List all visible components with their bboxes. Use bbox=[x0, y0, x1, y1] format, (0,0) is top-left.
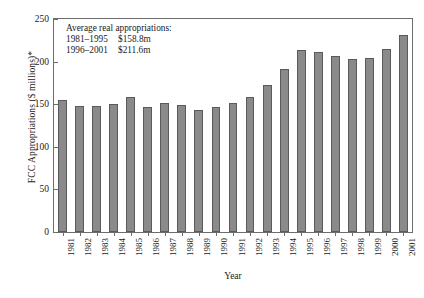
x-tick-label-1995: 1995 bbox=[305, 238, 315, 256]
bar-rect bbox=[75, 106, 84, 232]
y-tick-label: 250 bbox=[35, 14, 54, 24]
x-tick-label-1981: 1981 bbox=[66, 238, 76, 256]
annotation-period: 1996–2001 bbox=[66, 45, 118, 56]
bar-rect bbox=[314, 52, 323, 232]
x-tick-label-1997: 1997 bbox=[339, 238, 349, 256]
plot-area: 050100150200250 198119821983198419851986… bbox=[53, 18, 413, 233]
x-tick-mark bbox=[250, 232, 251, 236]
bar-rect bbox=[263, 85, 272, 232]
bar-1988 bbox=[177, 19, 186, 232]
x-tick-mark bbox=[233, 232, 234, 236]
bar-rect bbox=[246, 97, 255, 232]
bar-rect bbox=[331, 56, 340, 232]
annotation-box: Average real appropriations: 1981–1995$1… bbox=[66, 23, 172, 57]
annotation-period: 1981–1995 bbox=[66, 34, 118, 45]
x-tick-mark bbox=[80, 232, 81, 236]
bar-1995 bbox=[297, 19, 306, 232]
y-tick-label: 150 bbox=[35, 99, 54, 109]
x-tick-mark bbox=[216, 232, 217, 236]
x-tick-label-1994: 1994 bbox=[288, 238, 298, 256]
bar-rect bbox=[194, 110, 203, 232]
x-tick-label-1982: 1982 bbox=[83, 238, 93, 256]
x-tick-label-1996: 1996 bbox=[322, 238, 332, 256]
bar-1999 bbox=[365, 19, 374, 232]
x-tick-label-2000: 2000 bbox=[390, 238, 400, 256]
x-tick-label-1988: 1988 bbox=[185, 238, 195, 256]
x-tick-mark bbox=[284, 232, 285, 236]
annotation-row: 1996–2001$211.6m bbox=[66, 45, 172, 56]
bar-rect bbox=[143, 107, 152, 232]
x-tick-mark bbox=[131, 232, 132, 236]
y-tick-label: 200 bbox=[35, 57, 54, 67]
x-tick-mark bbox=[369, 232, 370, 236]
bar-1993 bbox=[263, 19, 272, 232]
x-tick-mark bbox=[267, 232, 268, 236]
x-tick-label-1987: 1987 bbox=[168, 238, 178, 256]
bar-rect bbox=[399, 35, 408, 232]
x-tick-label-1998: 1998 bbox=[356, 238, 366, 256]
x-tick-mark bbox=[352, 232, 353, 236]
annotation-row: 1981–1995$158.8m bbox=[66, 34, 172, 45]
bar-rect bbox=[382, 49, 391, 232]
bar-1992 bbox=[246, 19, 255, 232]
x-tick-mark bbox=[403, 232, 404, 236]
x-tick-mark bbox=[318, 232, 319, 236]
x-tick-mark bbox=[114, 232, 115, 236]
x-tick-label-1993: 1993 bbox=[271, 238, 281, 256]
x-tick-label-1986: 1986 bbox=[151, 238, 161, 256]
bar-1990 bbox=[212, 19, 221, 232]
bar-rect bbox=[109, 104, 118, 232]
bar-rect bbox=[58, 100, 67, 232]
x-tick-mark bbox=[97, 232, 98, 236]
bar-rect bbox=[297, 50, 306, 232]
x-tick-label-1983: 1983 bbox=[100, 238, 110, 256]
bar-rect bbox=[365, 58, 374, 232]
y-tick-label: 0 bbox=[44, 227, 54, 237]
bar-1997 bbox=[331, 19, 340, 232]
x-axis-title: Year bbox=[53, 271, 413, 281]
x-tick-label-1990: 1990 bbox=[219, 238, 229, 256]
bar-1991 bbox=[229, 19, 238, 232]
bar-1989 bbox=[194, 19, 203, 232]
y-tick-label: 50 bbox=[40, 184, 55, 194]
chart-figure: FCC Appropriations ($ millions)* 0501001… bbox=[0, 0, 424, 298]
bar-rect bbox=[126, 97, 135, 232]
annotation-amount: $158.8m bbox=[118, 34, 151, 44]
x-tick-mark bbox=[301, 232, 302, 236]
x-tick-mark bbox=[182, 232, 183, 236]
bar-1996 bbox=[314, 19, 323, 232]
x-tick-label-2001: 2001 bbox=[407, 238, 417, 256]
annotation-amount: $211.6m bbox=[118, 45, 150, 55]
bar-2000 bbox=[382, 19, 391, 232]
x-tick-label-1992: 1992 bbox=[254, 238, 264, 256]
bar-rect bbox=[280, 69, 289, 232]
x-tick-mark bbox=[63, 232, 64, 236]
x-tick-mark bbox=[165, 232, 166, 236]
bar-rect bbox=[177, 105, 186, 232]
bar-rect bbox=[92, 106, 101, 232]
x-tick-label-1989: 1989 bbox=[202, 238, 212, 256]
x-tick-label-1985: 1985 bbox=[134, 238, 144, 256]
x-tick-mark bbox=[148, 232, 149, 236]
bar-rect bbox=[229, 103, 238, 233]
bar-rect bbox=[348, 59, 357, 232]
bar-1998 bbox=[348, 19, 357, 232]
x-tick-mark bbox=[199, 232, 200, 236]
bar-rect bbox=[160, 103, 169, 233]
y-tick-label: 100 bbox=[35, 142, 54, 152]
bar-2001 bbox=[399, 19, 408, 232]
x-tick-label-1991: 1991 bbox=[237, 238, 247, 256]
bar-rect bbox=[212, 107, 221, 232]
y-axis-title: FCC Appropriations ($ millions)* bbox=[27, 7, 37, 227]
x-tick-label-1999: 1999 bbox=[373, 238, 383, 256]
x-tick-mark bbox=[386, 232, 387, 236]
x-tick-label-1984: 1984 bbox=[117, 238, 127, 256]
annotation-title: Average real appropriations: bbox=[66, 23, 172, 34]
bar-1994 bbox=[280, 19, 289, 232]
x-tick-mark bbox=[335, 232, 336, 236]
